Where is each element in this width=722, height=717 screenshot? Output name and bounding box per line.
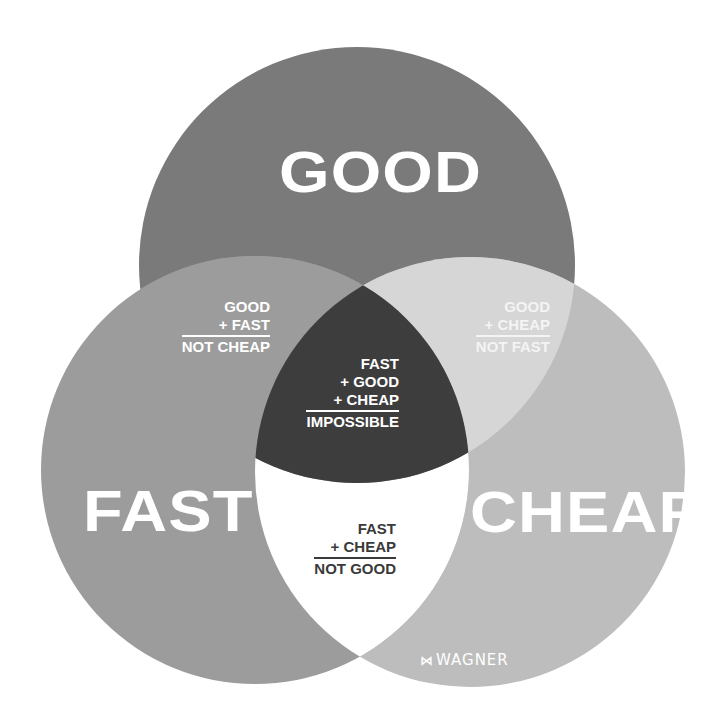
combo-all-three: FAST + GOOD + CHEAP IMPOSSIBLE: [306, 355, 399, 431]
combo-fast-cheap: FAST + CHEAP NOT GOOD: [314, 520, 396, 578]
label-cheap: CHEAP: [470, 483, 703, 541]
combo-good-fast: GOOD + FAST NOT CHEAP: [182, 298, 270, 356]
combo-line: FAST: [306, 355, 399, 373]
combo-line: + CHEAP: [314, 538, 396, 556]
combo-result: IMPOSSIBLE: [306, 410, 399, 431]
combo-line: GOOD: [182, 298, 270, 316]
label-good: GOOD: [279, 143, 482, 201]
combo-result: NOT GOOD: [314, 557, 396, 578]
label-fast: FAST: [83, 482, 254, 540]
combo-line: GOOD: [476, 298, 550, 316]
wagner-logo-text: WAGNER: [436, 651, 509, 669]
wagner-logo-icon: ⋈: [420, 653, 431, 668]
wagner-logo: ⋈ WAGNER: [420, 651, 509, 669]
combo-good-cheap: GOOD + CHEAP NOT FAST: [476, 298, 550, 356]
combo-result: NOT FAST: [476, 335, 550, 356]
combo-line: + GOOD: [306, 373, 399, 391]
combo-line: FAST: [314, 520, 396, 538]
combo-line: + CHEAP: [476, 316, 550, 334]
combo-line: + CHEAP: [306, 391, 399, 409]
combo-line: + FAST: [182, 316, 270, 334]
combo-result: NOT CHEAP: [182, 335, 270, 356]
